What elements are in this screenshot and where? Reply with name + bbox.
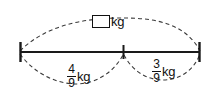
left-unit-label: kg <box>77 70 90 83</box>
right-fraction-denominator: 9 <box>152 72 161 84</box>
number-line-diagram: kg 4 9 kg 3 9 kg <box>0 0 216 103</box>
left-fraction: 4 9 <box>67 63 76 89</box>
right-unit-label: kg <box>162 65 175 78</box>
total-label: kg <box>92 15 124 28</box>
right-part-label: 3 9 kg <box>152 58 175 84</box>
right-fraction: 3 9 <box>152 58 161 84</box>
left-part-label: 4 9 kg <box>67 63 90 89</box>
left-fraction-denominator: 9 <box>67 77 76 89</box>
right-fraction-numerator: 3 <box>152 58 161 70</box>
total-unit-label: kg <box>111 15 124 28</box>
answer-box-input[interactable] <box>92 15 110 28</box>
left-fraction-numerator: 4 <box>67 63 76 75</box>
